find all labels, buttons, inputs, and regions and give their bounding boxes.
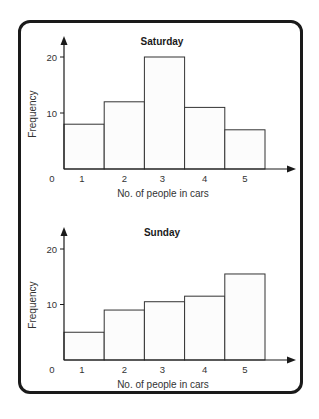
histograms: Saturday1020012345No. of people in carsF…: [0, 0, 319, 419]
x-tick-label: 1: [79, 364, 84, 375]
origin-label: 0: [49, 173, 54, 184]
histogram-bar: [225, 274, 265, 360]
histogram-bar: [104, 102, 144, 169]
x-axis-arrow-icon: [287, 357, 296, 364]
x-tick-label: 4: [202, 173, 207, 184]
y-axis-arrow-icon: [61, 36, 68, 45]
x-tick-label: 4: [202, 364, 207, 375]
y-tick-label: 20: [46, 244, 57, 255]
histogram-bar: [185, 296, 225, 360]
chart-title: Saturday: [141, 36, 184, 47]
histogram-bar: [104, 310, 144, 360]
x-tick-label: 2: [122, 173, 127, 184]
x-tick-label: 3: [160, 364, 165, 375]
chart-title: Sunday: [144, 227, 181, 238]
x-tick-label: 5: [242, 364, 247, 375]
x-tick-label: 5: [242, 173, 247, 184]
histogram-bar: [185, 107, 225, 169]
y-tick-label: 20: [46, 52, 57, 63]
y-axis-label: Frequency: [27, 281, 38, 328]
x-axis-label: No. of people in cars: [117, 188, 209, 199]
y-tick-label: 10: [46, 299, 57, 310]
y-axis-label: Frequency: [27, 90, 38, 137]
histogram-bar: [225, 130, 265, 169]
origin-label: 0: [49, 364, 54, 375]
histogram-bar: [144, 57, 184, 169]
histogram-bar: [144, 302, 184, 360]
histogram-bar: [64, 124, 104, 169]
x-axis-arrow-icon: [287, 166, 296, 173]
x-tick-label: 2: [122, 364, 127, 375]
histogram-bar: [64, 332, 104, 360]
x-axis-label: No. of people in cars: [117, 379, 209, 390]
y-axis-arrow-icon: [61, 227, 68, 236]
x-tick-label: 1: [79, 173, 84, 184]
histogram-sunday: Sunday1020012345No. of people in carsFre…: [27, 227, 296, 390]
histogram-saturday: Saturday1020012345No. of people in carsF…: [27, 36, 296, 199]
x-tick-label: 3: [160, 173, 165, 184]
y-tick-label: 10: [46, 108, 57, 119]
